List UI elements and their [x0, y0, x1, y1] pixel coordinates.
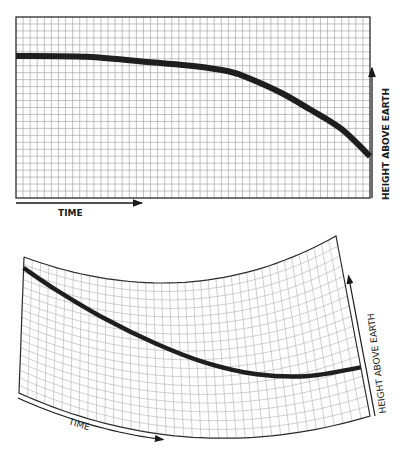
grid-line-horizontal	[22, 306, 349, 343]
grid-line-horizontal	[23, 286, 346, 325]
curved-trajectory-curve	[24, 268, 361, 377]
flat-xlabel: TIME	[58, 208, 83, 218]
flat-ylabel: HEIGHT ABOVE EARTH	[381, 88, 391, 200]
grid-line-horizontal	[24, 246, 338, 292]
flat-grid	[16, 17, 370, 198]
flat-graph: TIME HEIGHT ABOVE EARTH	[16, 17, 391, 218]
curved-ylabel: HEIGHT ABOVE EARTH	[366, 313, 388, 414]
grid-line-horizontal	[22, 316, 351, 351]
curved-grid	[19, 240, 368, 438]
curved-graph: TIME HEIGHT ABOVE EARTH	[18, 236, 388, 440]
figure: TIME HEIGHT ABOVE EARTH TIME HEIGHT ABOV…	[0, 0, 406, 456]
